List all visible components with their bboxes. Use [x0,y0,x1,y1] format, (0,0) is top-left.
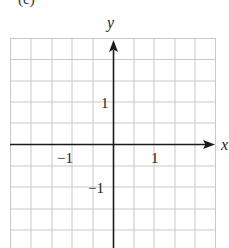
x-tick-neg1: −1 [57,151,73,166]
y-tick-neg1: −1 [88,181,104,196]
x-tick-pos1: 1 [151,151,159,166]
x-axis-label: x [221,137,228,153]
y-axis-label: y [107,15,114,31]
axes [10,50,206,248]
grid-svg [0,0,229,248]
coordinate-plane: (c) [0,0,229,248]
y-tick-pos1: 1 [101,96,109,111]
